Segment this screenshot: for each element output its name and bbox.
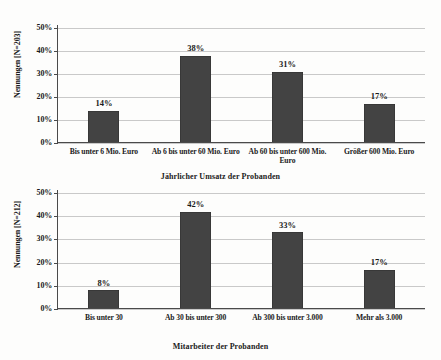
chart-mitarbeiter: Nennungen [N=212] 0%10%20%30%40%50% 8%42… [0, 182, 441, 360]
bar-slot: 33% [242, 193, 334, 309]
gridline-0% [58, 143, 425, 144]
bar-slot: 8% [58, 193, 150, 309]
bar-group-bottom: 8%42%33%17% [58, 193, 425, 309]
bar-value-label: 31% [279, 60, 296, 69]
y-tick-label: 50% [37, 24, 52, 32]
y-tick-label: 0% [40, 139, 52, 147]
x-axis-title-top: Jährlicher Umsatz der Probanden [0, 172, 441, 181]
x-category-label: Ab 6 bis unter 60 Mio. Euro [150, 147, 242, 156]
bar-value-label: 42% [187, 200, 204, 209]
bar-bis-unter-30: 8% [88, 290, 119, 309]
y-axis-line-bottom [57, 190, 58, 310]
bar-value-label: 38% [187, 44, 204, 53]
bar-gr-er-600-mio-euro: 17% [364, 104, 395, 143]
x-category-label: Größer 600 Mio. Euro [333, 147, 425, 156]
bar-value-label: 17% [371, 258, 388, 267]
x-category-label: Ab 300 bis unter 3.000 [242, 313, 334, 322]
y-axis-title-top: Nennungen [N=203] [13, 20, 22, 110]
bar-value-label: 33% [279, 221, 296, 230]
y-tick-label: 20% [37, 93, 52, 101]
gridline-0% [58, 309, 425, 310]
y-tick-label: 0% [40, 305, 52, 313]
y-tick-label: 20% [37, 259, 52, 267]
y-tick-label: 10% [37, 282, 52, 290]
bar-value-label: 17% [371, 92, 388, 101]
plot-area-top: 0%10%20%30%40%50% 14%38%31%17% [58, 28, 425, 143]
bar-ab-30-bis-unter-300: 42% [180, 212, 211, 309]
x-axis-line-bottom [57, 308, 425, 309]
bar-slot: 38% [150, 28, 242, 143]
x-category-label: Mehr als 3.000 [333, 313, 425, 322]
bar-bis-unter-6-mio-euro: 14% [88, 111, 119, 143]
y-tick-label: 30% [37, 70, 52, 78]
x-category-label: Ab 30 bis unter 300 [150, 313, 242, 322]
bar-ab-6-bis-unter-60-mio-euro: 38% [180, 56, 211, 143]
bar-slot: 17% [333, 28, 425, 143]
y-tick-label: 40% [37, 47, 52, 55]
plot-area-bottom: 0%10%20%30%40%50% 8%42%33%17% [58, 193, 425, 309]
x-category-label: Ab 60 bis unter 600 Mio. Euro [242, 147, 334, 166]
bar-group-top: 14%38%31%17% [58, 28, 425, 143]
y-tick-label: 10% [37, 116, 52, 124]
bar-slot: 14% [58, 28, 150, 143]
x-axis-title-bottom: Mitarbeiter der Probanden [0, 342, 441, 351]
y-tick-label: 30% [37, 235, 52, 243]
y-tick-label: 40% [37, 212, 52, 220]
bar-ab-60-bis-unter-600-mio-euro: 31% [272, 72, 303, 143]
bar-value-label: 8% [98, 279, 111, 288]
bar-value-label: 14% [95, 99, 112, 108]
bar-slot: 42% [150, 193, 242, 309]
chart-jaehrlicher-umsatz: Nennungen [N=203] 0%10%20%30%40%50% 14%3… [0, 0, 441, 190]
bar-ab-300-bis-unter-3-000: 33% [272, 232, 303, 309]
bar-mehr-als-3-000: 17% [364, 270, 395, 309]
bar-slot: 31% [242, 28, 334, 143]
x-category-label: Bis unter 30 [58, 313, 150, 322]
y-axis-title-bottom: Nennungen [N=212] [13, 190, 22, 280]
y-axis-line-top [57, 25, 58, 144]
x-category-label: Bis unter 6 Mio. Euro [58, 147, 150, 156]
x-axis-line-top [57, 142, 425, 143]
y-tick-label: 50% [37, 189, 52, 197]
bar-slot: 17% [333, 193, 425, 309]
